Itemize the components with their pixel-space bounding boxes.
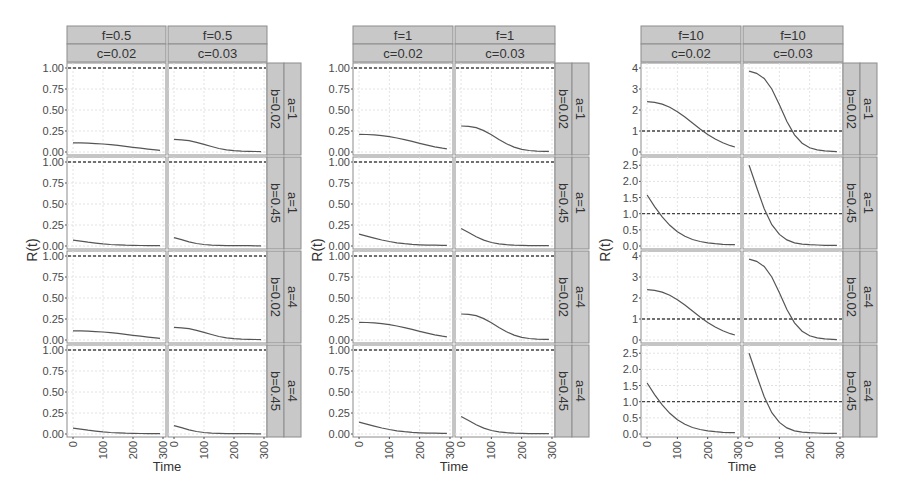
strip-label-a: a=1 [861,192,876,214]
y-tick-label: 1.00 [329,344,350,356]
x-tick-label: 0 [641,441,653,447]
x-tick-label: 200 [804,441,816,459]
panel-background [455,157,555,249]
facet-panel [641,345,741,437]
panel-background [353,345,453,437]
y-tick-label: 2.0 [623,363,638,375]
strip-label-f: f=0.5 [102,28,131,43]
x-tick-label: 300 [546,441,558,459]
x-tick-label: 0 [67,441,79,447]
y-tick-label: 0.00 [43,428,64,440]
y-tick-label: 1.00 [329,156,350,168]
facet-panel [353,251,453,343]
x-tick-label: 100 [485,441,497,459]
y-tick-label: 0 [632,146,638,158]
facet-panel [168,63,267,155]
y-tick-label: 1.0 [623,396,638,408]
y-tick-label: 0.75 [43,177,64,189]
facet-panel [743,157,843,249]
y-tick-label: 1.00 [329,62,350,74]
strip-label-b: b=0.02 [844,277,859,317]
strip-label-c: c=0.03 [198,46,237,61]
y-tick-label: 0.75 [43,365,64,377]
panel-background [743,157,843,249]
x-axis-title: Time [440,459,468,474]
strip-label-b: b=0.45 [556,371,571,411]
y-tick-label: 1.00 [43,250,64,262]
y-tick-label: 0.5 [623,224,638,236]
facet-panel [743,345,843,437]
panel-background [743,251,843,343]
y-tick-label: 0.75 [329,365,350,377]
panel-background [455,345,555,437]
y-tick-label: 0.25 [329,219,350,231]
panel-background [641,345,741,437]
facet-panel [641,63,741,155]
panel-background [67,345,166,437]
facet-panel [455,345,555,437]
strip-label-f: f=0.5 [203,28,232,43]
panel-background [455,63,555,155]
panel-background [353,251,453,343]
strip-label-b: b=0.02 [268,89,283,129]
facet-panel [168,345,267,437]
y-tick-label: 0.75 [329,271,350,283]
strip-label-b: b=0.45 [268,371,283,411]
y-tick-label: 0.25 [43,219,64,231]
chart-canvas: f=0.5c=0.02f=0.5c=0.030.000.250.500.751.… [0,0,903,498]
y-tick-label: 3 [632,271,638,283]
y-tick-label: 0.75 [43,271,64,283]
y-axis-title: R(t) [597,238,613,261]
y-tick-label: 0.25 [329,313,350,325]
y-tick-label: 1 [632,125,638,137]
y-tick-label: 0.25 [329,407,350,419]
facet-panel [67,345,166,437]
strip-label-b: b=0.45 [556,183,571,223]
x-tick-label: 300 [834,441,846,459]
panel-background [168,157,267,249]
strip-label-a: a=4 [573,286,588,308]
strip-label-a: a=1 [285,98,300,120]
strip-label-a: a=1 [573,192,588,214]
strip-label-a: a=1 [861,98,876,120]
facet-panel [67,157,166,249]
y-tick-label: 0.50 [329,104,350,116]
strip-label-b: b=0.02 [556,89,571,129]
strip-label-a: a=1 [573,98,588,120]
x-tick-label: 100 [773,441,785,459]
panel-background [67,63,166,155]
strip-label-f: f=10 [780,28,806,43]
panel-background [168,251,267,343]
x-tick-label: 100 [198,441,210,459]
y-tick-label: 3 [632,83,638,95]
strip-label-a: a=4 [285,380,300,402]
strip-label-b: b=0.02 [844,89,859,129]
y-tick-label: 0.50 [329,198,350,210]
x-tick-label: 0 [743,441,755,447]
panel-background [641,251,741,343]
strip-label-a: a=4 [861,286,876,308]
panel-background [168,345,267,437]
facet-panel [67,63,166,155]
panel-background [743,345,843,437]
x-tick-label: 0 [168,441,180,447]
strip-label-b: b=0.02 [556,277,571,317]
facet-panel [67,251,166,343]
y-tick-label: 2.5 [623,347,638,359]
y-tick-label: 4 [632,250,638,262]
panel-background [641,157,741,249]
panel-background [641,63,741,155]
x-axis-title: Time [153,459,181,474]
y-tick-label: 0.50 [43,198,64,210]
x-tick-label: 200 [414,441,426,459]
y-tick-label: 0.25 [43,313,64,325]
strip-label-b: b=0.45 [268,183,283,223]
strip-label-a: a=4 [285,286,300,308]
y-tick-label: 0.50 [329,386,350,398]
strip-label-c: c=0.03 [773,46,812,61]
strip-label-c: c=0.03 [485,46,524,61]
strip-label-a: a=1 [285,192,300,214]
facet-panel [455,63,555,155]
y-tick-label: 0.75 [329,83,350,95]
facet-panel [641,157,741,249]
